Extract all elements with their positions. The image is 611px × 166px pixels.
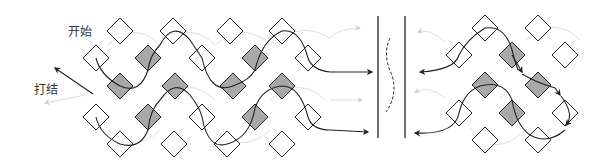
divider-lines xyxy=(378,16,405,138)
white-diamond-tile xyxy=(161,131,187,157)
white-diamond-tile xyxy=(107,18,133,44)
white-diamond-tile xyxy=(552,100,578,126)
white-diamond-tile xyxy=(472,127,498,153)
white-diamond-tile xyxy=(525,127,551,153)
gray-diamond-tile xyxy=(499,100,525,126)
white-diamond-tile xyxy=(269,131,295,157)
diamond-tiles xyxy=(83,15,578,157)
white-diamond-tile xyxy=(552,42,578,68)
tie-knot-label: 打结 xyxy=(34,80,58,97)
start-label: 开始 xyxy=(68,22,92,39)
gray-diamond-tile xyxy=(242,45,268,71)
dashed-wave xyxy=(386,38,394,112)
knot-diagram: 开始 打结 xyxy=(0,0,611,166)
